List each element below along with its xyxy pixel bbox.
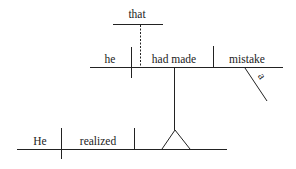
clause-verb: had made: [152, 53, 196, 65]
main-verb: realized: [80, 135, 117, 147]
clause-subject: he: [105, 53, 116, 65]
main-subject: He: [33, 135, 46, 147]
connector-word: that: [128, 8, 146, 20]
clause-object: mistake: [229, 53, 265, 65]
modifier-word: a: [256, 70, 269, 81]
pedestal-triangle: [162, 130, 190, 149]
sentence-diagram: that he had made mistake a He realized: [0, 0, 296, 169]
